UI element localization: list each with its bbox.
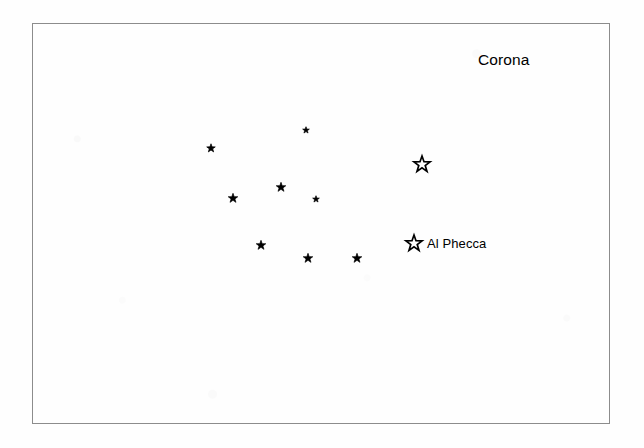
star-chart-page: Corona Al Phecca xyxy=(0,0,644,448)
constellation-title: Corona xyxy=(478,52,529,68)
star-bright-upper-right-icon xyxy=(412,154,433,175)
star-lower-center-icon xyxy=(301,251,315,265)
star-small-upper-icon xyxy=(301,125,312,136)
star-name-label: Al Phecca xyxy=(427,237,486,250)
star-lower-right-icon xyxy=(350,251,364,265)
chart-frame-border xyxy=(32,23,610,424)
star-lower-left-icon xyxy=(254,238,268,252)
star-al-phecca-icon xyxy=(404,233,425,254)
star-upper-left-icon xyxy=(205,142,218,155)
star-mid-center-icon xyxy=(274,180,288,194)
star-small-mid-right-icon xyxy=(311,194,322,205)
star-mid-left-icon xyxy=(226,191,240,205)
